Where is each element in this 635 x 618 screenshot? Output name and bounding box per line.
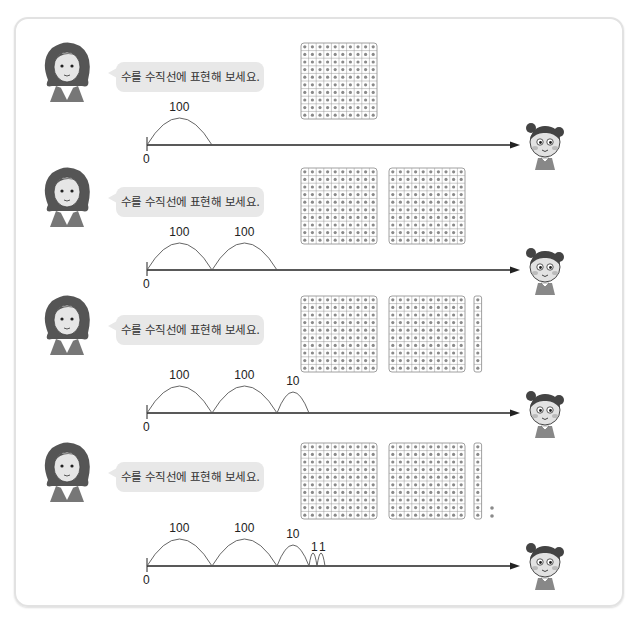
jump-label: 1 xyxy=(311,540,318,554)
jump-label: 1 xyxy=(319,540,326,554)
jump-arc xyxy=(212,386,277,413)
jump-arc xyxy=(147,386,212,413)
one-block xyxy=(490,506,494,510)
exercise-row: 수를 수직선에 표현해 보세요. 01001001011 xyxy=(0,440,635,570)
jump-arc xyxy=(147,118,212,145)
jump-label: 100 xyxy=(234,368,254,382)
arrow-head-icon xyxy=(510,563,520,570)
jump-arc xyxy=(212,539,277,566)
jump-label: 100 xyxy=(169,100,189,114)
jump-label: 100 xyxy=(234,521,254,535)
ten-block xyxy=(474,296,482,372)
ten-block xyxy=(474,443,482,519)
jump-arc xyxy=(317,553,325,566)
zero-label: 0 xyxy=(143,152,150,166)
arrow-head-icon xyxy=(510,410,520,417)
hundred-block xyxy=(389,443,465,519)
jump-arc xyxy=(277,545,309,566)
hundred-block xyxy=(301,296,377,372)
jump-arc xyxy=(277,392,309,413)
zero-label: 0 xyxy=(143,420,150,434)
jump-label: 100 xyxy=(234,225,254,239)
zero-label: 0 xyxy=(143,277,150,291)
exercise-row: 수를 수직선에 표현해 보세요. 0100 xyxy=(0,40,635,170)
jump-arc xyxy=(147,539,212,566)
exercise-row: 수를 수직선에 표현해 보세요. 0100100 xyxy=(0,165,635,295)
number-line: 010010010 xyxy=(0,293,635,453)
hundred-block xyxy=(301,43,377,119)
one-block xyxy=(490,514,494,518)
jump-arc xyxy=(212,243,277,270)
hundred-block xyxy=(301,168,377,244)
exercise-row: 수를 수직선에 표현해 보세요. 010010010 xyxy=(0,293,635,423)
jump-label: 10 xyxy=(286,374,300,388)
jump-label: 100 xyxy=(169,225,189,239)
hundred-block xyxy=(389,296,465,372)
jump-label: 100 xyxy=(169,521,189,535)
arrow-head-icon xyxy=(510,142,520,149)
hundred-block xyxy=(301,443,377,519)
jump-arc xyxy=(147,243,212,270)
zero-label: 0 xyxy=(143,573,150,587)
number-line: 01001001011 xyxy=(0,440,635,600)
jump-label: 100 xyxy=(169,368,189,382)
jump-label: 10 xyxy=(286,527,300,541)
jump-arc xyxy=(309,553,317,566)
hundred-block xyxy=(389,168,465,244)
arrow-head-icon xyxy=(510,267,520,274)
